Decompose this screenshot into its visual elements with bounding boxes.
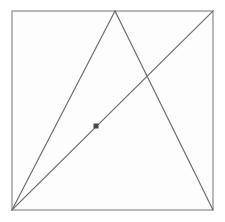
- point-marker: [94, 124, 99, 129]
- figure-canvas: [0, 0, 225, 222]
- geometry-figure-svg: [0, 0, 225, 222]
